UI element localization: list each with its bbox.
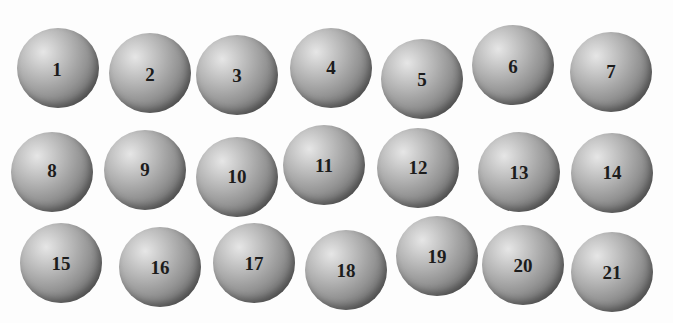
sphere-number-label: 9 xyxy=(140,159,150,181)
sphere-number-label: 2 xyxy=(145,64,155,86)
sphere-number-label: 1 xyxy=(52,59,62,81)
sphere-number-label: 4 xyxy=(326,57,336,79)
sphere-number-label: 6 xyxy=(508,56,518,78)
sphere-number-label: 14 xyxy=(603,162,622,184)
sphere-number-label: 19 xyxy=(428,246,447,268)
sphere-14: 14 xyxy=(571,133,653,213)
sphere-21: 21 xyxy=(571,232,653,312)
sphere-10: 10 xyxy=(196,137,278,217)
sphere-18: 18 xyxy=(305,230,387,310)
sphere-number-label: 15 xyxy=(52,253,71,275)
sphere-1: 1 xyxy=(17,28,99,108)
sphere-9: 9 xyxy=(104,130,186,210)
sphere-number-label: 7 xyxy=(606,61,616,83)
sphere-number-label: 8 xyxy=(47,160,57,182)
sphere-8: 8 xyxy=(11,132,93,212)
sphere-16: 16 xyxy=(119,227,201,307)
sphere-grid-figure: 123456789101112131415161718192021 xyxy=(0,0,673,323)
sphere-number-label: 5 xyxy=(417,69,427,91)
sphere-number-label: 12 xyxy=(409,157,428,179)
sphere-number-label: 21 xyxy=(603,262,622,284)
sphere-7: 7 xyxy=(570,32,652,112)
sphere-19: 19 xyxy=(396,216,478,296)
sphere-number-label: 11 xyxy=(315,155,333,177)
sphere-5: 5 xyxy=(381,39,463,119)
sphere-11: 11 xyxy=(283,125,365,205)
sphere-4: 4 xyxy=(290,28,372,108)
sphere-number-label: 20 xyxy=(514,255,533,277)
sphere-number-label: 18 xyxy=(337,260,356,282)
sphere-number-label: 16 xyxy=(151,257,170,279)
sphere-3: 3 xyxy=(196,35,278,115)
sphere-13: 13 xyxy=(478,132,560,212)
sphere-number-label: 10 xyxy=(228,166,247,188)
sphere-number-label: 17 xyxy=(245,253,264,275)
sphere-number-label: 13 xyxy=(510,162,529,184)
sphere-12: 12 xyxy=(377,128,459,208)
sphere-number-label: 3 xyxy=(232,65,242,87)
sphere-6: 6 xyxy=(472,25,554,105)
sphere-15: 15 xyxy=(20,223,102,303)
sphere-2: 2 xyxy=(109,33,191,113)
sphere-17: 17 xyxy=(213,223,295,303)
sphere-20: 20 xyxy=(482,225,564,305)
